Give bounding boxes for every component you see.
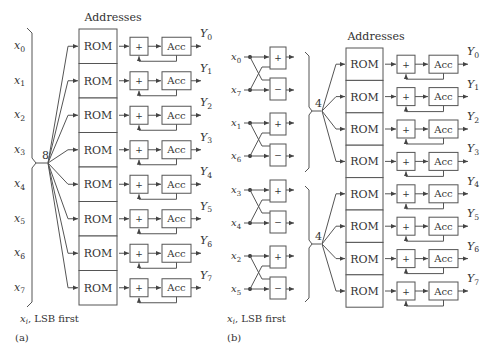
feedback-wire	[139, 297, 177, 303]
plus-symbol: +	[274, 186, 282, 196]
subscript: 3	[207, 136, 212, 145]
bus-width-label: 8	[42, 149, 49, 162]
input-label: x1	[231, 117, 241, 131]
bus-width-label: 4	[315, 230, 322, 243]
subscript: 1	[474, 83, 479, 92]
acc-label: Acc	[433, 91, 453, 102]
output-label: Y7	[200, 269, 212, 284]
svg-text:Y2: Y2	[200, 96, 212, 111]
cross-wire	[250, 57, 270, 80]
bus-width-label: 4	[315, 97, 322, 110]
adder-symbol: +	[402, 60, 410, 70]
subscript: 3	[20, 148, 25, 157]
subscript: 3	[474, 148, 479, 157]
output-label: Y1	[200, 62, 212, 77]
adder-symbol: +	[135, 111, 143, 121]
svg-text:x3: x3	[231, 184, 241, 198]
svg-text:Y2: Y2	[467, 110, 479, 125]
subscript: 2	[474, 116, 479, 125]
cross-wire	[250, 67, 270, 90]
svg-text:x2: x2	[14, 108, 25, 123]
adder-symbol: +	[135, 283, 143, 293]
input-label: x0	[231, 51, 241, 65]
svg-text:x6: x6	[14, 246, 25, 261]
input-order-note: xi, LSB first	[227, 313, 286, 326]
feedback-wire	[406, 300, 444, 306]
subscript: 1	[237, 123, 241, 131]
svg-text:x7: x7	[14, 281, 25, 296]
svg-text:Y6: Y6	[200, 234, 212, 249]
rom-label: ROM	[84, 40, 113, 53]
input-label: x4	[14, 177, 25, 192]
output-label: Y3	[200, 131, 212, 146]
subscript: 4	[20, 183, 25, 192]
output-label: Y5	[200, 200, 212, 215]
feedback-wire	[139, 124, 177, 130]
output-label: Y1	[467, 78, 479, 93]
svg-text:Y6: Y6	[467, 240, 479, 255]
svg-text:Y7: Y7	[200, 269, 212, 284]
rom-label: ROM	[350, 285, 379, 298]
adder-symbol: +	[402, 287, 410, 297]
svg-text:x2: x2	[231, 250, 241, 264]
subscript: 6	[20, 252, 25, 261]
cross-wire	[250, 190, 270, 213]
adder-symbol: +	[402, 157, 410, 167]
acc-label: Acc	[166, 41, 186, 52]
address-fanout-wire	[322, 226, 345, 244]
feedback-wire	[139, 228, 177, 234]
adder-symbol: +	[402, 222, 410, 232]
svg-text:xi, LSB first: xi, LSB first	[20, 313, 79, 326]
feedback-wire	[406, 235, 444, 241]
rom-label: ROM	[350, 123, 379, 136]
lower-brace	[305, 186, 321, 302]
input-label: x2	[231, 250, 241, 264]
output-label: Y6	[467, 240, 479, 255]
cross-wire	[250, 266, 270, 289]
feedback-wire	[406, 138, 444, 144]
plus-symbol: +	[274, 53, 282, 63]
minus-symbol: −	[274, 150, 282, 160]
output-label: Y2	[200, 96, 212, 111]
pipeline-row: ROM+AccY6	[79, 234, 212, 270]
acc-label: Acc	[433, 156, 453, 167]
subscript: 0	[474, 51, 479, 60]
acc-label: Acc	[433, 286, 453, 297]
acc-label: Acc	[433, 253, 453, 264]
rom-label: ROM	[350, 58, 379, 71]
acc-label: Acc	[166, 282, 186, 293]
minus-symbol: −	[274, 217, 282, 227]
pipeline-row: ROM+AccY1	[346, 78, 479, 113]
pipeline-row: ROM+AccY7	[79, 269, 212, 305]
panel-b: AddressesROM+AccY0ROM+AccY1ROM+AccY2ROM+…	[227, 30, 479, 343]
input-order-note: xi, LSB first	[20, 313, 79, 326]
subscript: 7	[20, 286, 25, 295]
svg-text:Y0: Y0	[200, 27, 212, 42]
feedback-wire	[406, 268, 444, 274]
rom-label: ROM	[84, 178, 113, 191]
minus-symbol: −	[274, 283, 282, 293]
subscript: 6	[207, 240, 212, 249]
svg-text:x5: x5	[14, 212, 25, 227]
subscript: 2	[207, 102, 212, 111]
feedback-wire	[139, 159, 177, 165]
rom-label: ROM	[84, 109, 113, 122]
acc-label: Acc	[166, 75, 186, 86]
pipeline-row: ROM+AccY7	[346, 272, 479, 307]
svg-text:x1: x1	[14, 74, 25, 89]
adder-symbol: +	[135, 76, 143, 86]
output-label: Y7	[467, 272, 479, 287]
butterfly: x0x7+−	[231, 47, 294, 100]
pipeline-row: ROM+AccY1	[79, 62, 212, 98]
feedback-wire	[406, 73, 444, 79]
acc-label: Acc	[166, 213, 186, 224]
input-label: x5	[231, 283, 241, 297]
svg-text:Y3: Y3	[200, 131, 212, 146]
addresses-label: Addresses	[83, 11, 142, 24]
svg-text:x5: x5	[231, 283, 241, 297]
svg-text:Y0: Y0	[467, 45, 479, 60]
svg-text:Y3: Y3	[467, 142, 479, 157]
cross-wire	[250, 256, 270, 279]
pipeline-row: ROM+AccY5	[346, 207, 479, 242]
feedback-wire	[139, 262, 177, 268]
